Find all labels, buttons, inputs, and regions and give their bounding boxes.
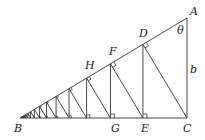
triangle-figure	[0, 0, 205, 140]
label-E: E	[141, 123, 149, 134]
hypotenuse-AB	[20, 18, 187, 118]
label-F: F	[109, 46, 117, 57]
perpendicular-to-hypotenuse	[31, 112, 35, 118]
right-angle-mark	[87, 115, 90, 118]
label-A: A	[190, 6, 198, 17]
perpendicular-to-hypotenuse	[110, 64, 142, 118]
perpendicular-to-hypotenuse	[143, 44, 187, 118]
perpendicular-to-hypotenuse	[69, 89, 87, 118]
right-angle-mark	[110, 114, 114, 118]
right-angle-mark	[40, 106, 41, 108]
label-C: C	[183, 123, 191, 134]
label-D: D	[139, 28, 148, 39]
right-angle-mark	[47, 101, 48, 103]
right-angle-mark	[143, 114, 147, 118]
perpendicular-to-hypotenuse	[47, 102, 57, 118]
label-b: b	[190, 64, 197, 75]
label-theta: θ	[177, 25, 184, 36]
geometry-diagram: A θ b D F H B G E C	[0, 0, 205, 140]
label-G: G	[111, 123, 120, 134]
perpendicular-to-hypotenuse	[34, 109, 39, 118]
perpendicular-to-hypotenuse	[87, 78, 111, 118]
label-H: H	[85, 60, 95, 71]
perpendicular-to-hypotenuse	[40, 106, 47, 118]
perpendicular-to-hypotenuse	[56, 96, 69, 118]
label-B: B	[14, 123, 22, 134]
